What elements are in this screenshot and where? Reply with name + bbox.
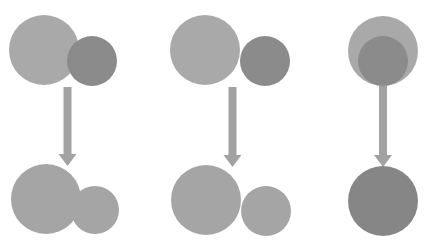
top-circle-small: [240, 36, 290, 86]
arrow-shaft: [379, 86, 387, 155]
circle-transformation-diagram: [0, 0, 428, 249]
bottom-circle-large: [11, 164, 81, 234]
arrow-down-icon: [59, 154, 77, 166]
top-circle-small: [67, 36, 117, 86]
bottom-circle-small: [241, 186, 291, 236]
top-circle-small: [358, 36, 408, 86]
arrow-down-icon: [224, 155, 242, 167]
diagram-canvas: [0, 0, 428, 249]
column-left: [9, 15, 119, 234]
arrow-shaft: [64, 87, 72, 154]
bottom-circle-merged: [348, 166, 418, 236]
bottom-circle-large: [171, 165, 241, 235]
top-circle-large: [9, 15, 79, 85]
top-circle-large: [170, 15, 240, 85]
arrow-down-icon: [374, 155, 392, 167]
column-right: [348, 16, 418, 236]
column-middle: [170, 15, 291, 236]
arrow-shaft: [229, 87, 237, 155]
bottom-circle-small: [71, 186, 119, 234]
